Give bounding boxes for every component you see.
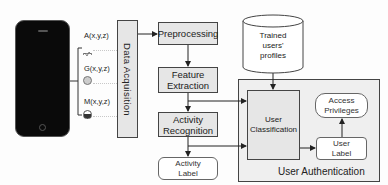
feature-extraction-label-1: Feature — [172, 69, 205, 80]
accelerometer-signal — [93, 44, 119, 51]
access-privileges-box: Access Privileges — [315, 93, 368, 118]
user-label-text-1: User — [333, 139, 350, 149]
magnetometer-icon — [83, 110, 92, 119]
trained-profiles-label-2: users' — [243, 41, 303, 51]
activity-recognition-label-1: Activity — [173, 114, 203, 125]
trained-profiles-label-3: profiles — [243, 51, 303, 61]
activity-label-text-2: Label — [178, 169, 198, 179]
activity-recognition-box: Activity Recognition — [158, 112, 218, 137]
user-label-text-2: Label — [332, 149, 352, 159]
user-classification-label-1: User — [265, 115, 282, 125]
user-classification-label-2: Classification — [250, 125, 297, 135]
feature-extraction-label-2: Extraction — [167, 80, 209, 91]
feature-extraction-box: Feature Extraction — [158, 67, 218, 93]
access-privileges-label-1: Access — [329, 96, 355, 106]
activity-label-text-1: Activity — [175, 159, 200, 169]
gyroscope-signal — [93, 77, 119, 84]
smartphone-image — [15, 20, 70, 137]
trained-profiles-label-1: Trained — [243, 31, 303, 41]
data-acquisition-label: Data Acquisition — [122, 43, 133, 116]
data-acquisition-box: Data Acquisition — [117, 20, 138, 138]
sensor-label-gyroscope: G(x,y,z) — [84, 64, 110, 73]
gyroscope-icon — [83, 76, 92, 85]
user-label-box: User Label — [316, 137, 367, 160]
preprocessing-label: Preprocessing — [158, 28, 219, 39]
activity-label-box: Activity Label — [158, 157, 218, 180]
magnetometer-signal — [93, 110, 119, 117]
activity-recognition-label-2: Recognition — [163, 125, 213, 136]
access-privileges-label-2: Privileges — [324, 106, 359, 116]
trained-profiles-database: Trained users' profiles — [243, 31, 303, 61]
phone-speaker — [38, 30, 48, 32]
sensor-label-magnetometer: M(x,y,z) — [84, 97, 110, 106]
sensor-label-accelerometer: A(x,y,z) — [84, 31, 109, 40]
user-classification-box: User Classification — [247, 90, 300, 160]
preprocessing-box: Preprocessing — [158, 22, 218, 45]
phone-home-button — [39, 124, 46, 131]
diagram-canvas: User Authentication — [0, 0, 388, 185]
accelerometer-icon — [83, 45, 92, 54]
